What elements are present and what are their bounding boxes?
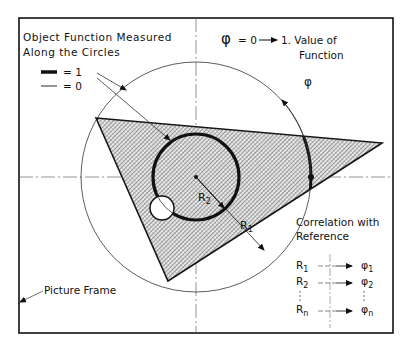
svg-text:φ2: φ2 — [361, 275, 373, 290]
svg-text:R2: R2 — [296, 275, 308, 290]
correlation-title-line1: Correlation with — [296, 216, 380, 228]
picture-frame-label: Picture Frame — [44, 284, 116, 296]
frame-pointer — [20, 291, 43, 302]
svg-text:φ1: φ1 — [361, 259, 373, 274]
correlation-row: R1 φ1 — [296, 259, 373, 274]
correlation-title-line2: Reference — [296, 230, 349, 242]
phi-start-point — [308, 174, 314, 180]
object-triangle — [96, 118, 382, 281]
phi-note-symbol: φ — [221, 30, 231, 48]
phi-note-tail: 1. Value of — [281, 34, 337, 46]
legend-thin-label: = 0 — [63, 80, 82, 92]
svg-text:φn: φn — [361, 303, 373, 318]
diagram-canvas: Object Function Measured Along the Circl… — [0, 0, 414, 354]
angle-phi-label: φ — [304, 75, 312, 89]
correlation-row: R2 φ2 — [296, 275, 373, 290]
correlation-row: Rn φn — [296, 303, 373, 318]
svg-text:R1: R1 — [296, 259, 308, 274]
legend-thick-label: = 1 — [63, 66, 82, 78]
phi-note-line2: Function — [299, 49, 344, 61]
phi-note-eq: = 0 — [238, 34, 257, 46]
hole-circle — [150, 196, 174, 220]
svg-text:Rn: Rn — [296, 303, 308, 318]
legend-title-line1: Object Function Measured — [23, 31, 172, 43]
legend-title-line2: Along the Circles — [23, 46, 120, 58]
